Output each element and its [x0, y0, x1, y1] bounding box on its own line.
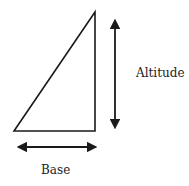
right-triangle [14, 12, 95, 131]
triangle-diagram: Altitude Base [0, 0, 189, 186]
altitude-label: Altitude [135, 66, 185, 80]
base-label: Base [41, 163, 70, 177]
